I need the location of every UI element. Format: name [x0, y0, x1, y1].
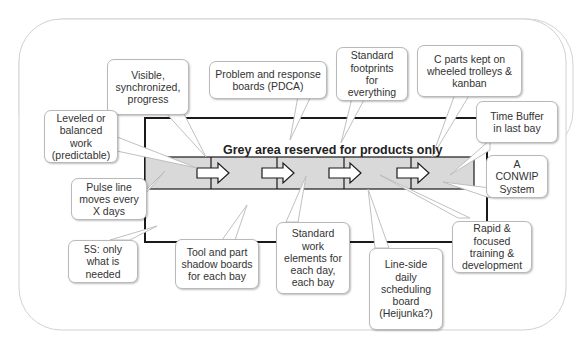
lean-pulse-line-diagram: Grey area reserved for products only Vis…: [0, 0, 582, 347]
callout-problem-boards: Problem and response boards (PDCA): [209, 61, 327, 99]
callout-conwip: A CONWIP System: [486, 155, 548, 198]
callout-c-parts: C parts kept on wheeled trolleys & kanba…: [417, 45, 522, 97]
callout-5s: 5S: only what is needed: [68, 240, 138, 283]
callout-heijunka: Line-side daily scheduling board (Heijun…: [369, 248, 443, 330]
callout-standard-work: Standard work elements for each day, eac…: [276, 222, 350, 294]
callout-visible-progress: Visible, synchronized, progress: [107, 59, 189, 115]
grey-area-title: Grey area reserved for products only: [223, 143, 443, 157]
callout-pulse-line: Pulse line moves every X days: [71, 178, 147, 220]
callout-time-buffer: Time Buffer in last bay: [476, 101, 558, 143]
callout-standard-footprints: Standard footprints for everything: [336, 47, 408, 101]
callout-leveled-work: Leveled or balanced work (predictable): [44, 110, 118, 163]
callout-training: Rapid & focused training & development: [452, 221, 532, 273]
callout-shadow-boards: Tool and part shadow boards for each bay: [175, 239, 259, 289]
